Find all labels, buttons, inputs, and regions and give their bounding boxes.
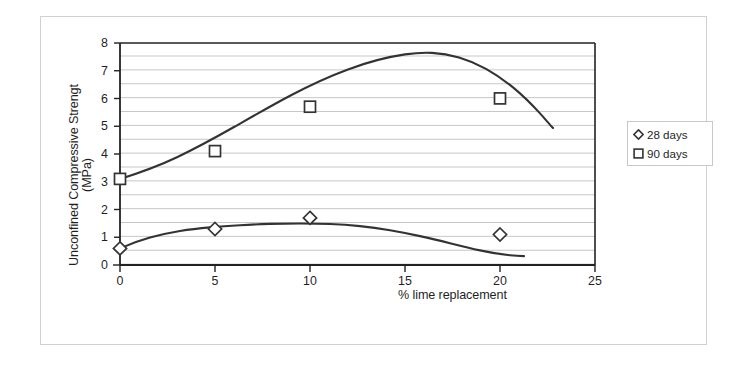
data-point-marker bbox=[210, 146, 221, 157]
data-point-marker bbox=[115, 173, 126, 184]
chart-plot-area bbox=[0, 0, 743, 366]
line-chart: 0 1 2 3 4 5 6 7 8 0 5 10 15 20 25 Unconf… bbox=[0, 0, 743, 366]
x-axis-title: % lime replacement bbox=[398, 288, 507, 302]
data-point-marker bbox=[493, 228, 506, 241]
y-axis-ticks bbox=[113, 43, 120, 265]
chart-legend: 28 days 90 days bbox=[627, 121, 713, 166]
series-line-28-days bbox=[120, 224, 524, 257]
x-tick-label-5: 5 bbox=[202, 274, 228, 288]
data-point-marker bbox=[495, 93, 506, 104]
legend-item-28-days[interactable]: 28 days bbox=[633, 125, 712, 144]
y-tick-label-8: 8 bbox=[92, 36, 108, 50]
series-markers-90-days bbox=[115, 93, 506, 184]
diamond-marker-icon bbox=[633, 129, 644, 140]
legend-label-90-days: 90 days bbox=[647, 147, 688, 160]
square-marker-icon bbox=[633, 148, 644, 159]
x-tick-label-15: 15 bbox=[392, 274, 418, 288]
x-tick-label-20: 20 bbox=[487, 274, 513, 288]
y-axis-title: Unconfined Compressive Strengt (MPa) bbox=[58, 50, 104, 300]
series-line-90-days bbox=[120, 53, 553, 179]
y-axis-title-line-1: Unconfined Compressive Strengt bbox=[68, 84, 81, 266]
x-tick-label-0: 0 bbox=[107, 274, 133, 288]
data-point-marker bbox=[208, 223, 221, 236]
x-axis-ticks bbox=[120, 265, 595, 272]
horizontal-gridlines bbox=[120, 56, 595, 264]
y-axis-title-line-2: (MPa) bbox=[81, 158, 94, 192]
data-point-marker bbox=[305, 101, 316, 112]
data-point-marker bbox=[113, 242, 126, 255]
plot-frame bbox=[120, 43, 595, 265]
legend-item-90-days[interactable]: 90 days bbox=[633, 144, 712, 163]
x-tick-label-25: 25 bbox=[582, 274, 608, 288]
legend-label-28-days: 28 days bbox=[647, 128, 688, 141]
x-tick-label-10: 10 bbox=[297, 274, 323, 288]
